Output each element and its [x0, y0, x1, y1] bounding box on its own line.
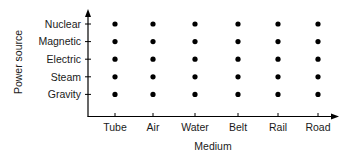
data-point-dot: [112, 57, 117, 62]
data-point-dot: [112, 92, 117, 97]
data-point-dot: [235, 74, 240, 79]
data-point-dot: [235, 39, 240, 44]
data-point-dot: [192, 74, 197, 79]
data-point-dot: [235, 21, 240, 26]
x-tick-label: Air: [147, 121, 160, 133]
x-tick-label: Road: [305, 121, 330, 133]
morphological-matrix-chart: GravitySteamElectricMagneticNuclear Tube…: [0, 0, 351, 158]
data-point-dot: [315, 39, 320, 44]
data-point-dot: [192, 92, 197, 97]
data-point-dot: [275, 92, 280, 97]
data-point-dot: [112, 39, 117, 44]
data-point-dot: [315, 74, 320, 79]
data-point-dot: [192, 57, 197, 62]
data-point-dot: [112, 21, 117, 26]
x-tick-label: Rail: [269, 121, 287, 133]
data-point-dot: [112, 74, 117, 79]
data-point-dot: [192, 21, 197, 26]
data-point-dot: [150, 57, 155, 62]
y-axis-arrow-icon: [85, 9, 91, 17]
data-point-dot: [275, 39, 280, 44]
axes: [85, 9, 339, 120]
data-point-dot: [315, 57, 320, 62]
x-axis-arrow-icon: [331, 114, 339, 120]
data-point-dot: [275, 74, 280, 79]
data-point-dot: [150, 92, 155, 97]
data-points: [112, 21, 320, 97]
data-point-dot: [275, 21, 280, 26]
y-tick-label: Electric: [47, 53, 81, 65]
data-point-dot: [150, 21, 155, 26]
x-tick-label: Belt: [229, 121, 247, 133]
data-point-dot: [150, 39, 155, 44]
y-ticks: GravitySteamElectricMagneticNuclear: [38, 18, 91, 100]
y-tick-label: Gravity: [48, 88, 82, 100]
y-tick-label: Nuclear: [45, 18, 82, 30]
x-tick-label: Tube: [103, 121, 127, 133]
data-point-dot: [192, 39, 197, 44]
y-tick-label: Steam: [51, 71, 82, 83]
data-point-dot: [315, 21, 320, 26]
data-point-dot: [235, 92, 240, 97]
x-axis-title: Medium: [194, 140, 232, 152]
y-tick-label: Magnetic: [38, 35, 81, 47]
data-point-dot: [275, 57, 280, 62]
data-point-dot: [235, 57, 240, 62]
x-tick-label: Water: [181, 121, 209, 133]
data-point-dot: [315, 92, 320, 97]
data-point-dot: [150, 74, 155, 79]
y-axis-title: Power source: [12, 30, 24, 94]
